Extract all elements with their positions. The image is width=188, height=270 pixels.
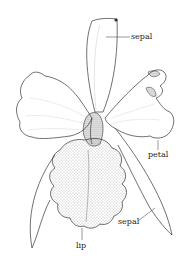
leader-sepal-bottom: [138, 208, 155, 221]
left-lateral-sepal: [30, 155, 55, 248]
label-lip: lip: [76, 242, 86, 250]
orchid-illustration: [0, 0, 188, 270]
label-sepal-top: sepal: [131, 33, 152, 41]
label-petal: petal: [148, 151, 168, 159]
dorsal-sepal: [87, 18, 118, 112]
label-sepal-bottom: sepal: [118, 218, 139, 226]
column: [83, 113, 103, 147]
